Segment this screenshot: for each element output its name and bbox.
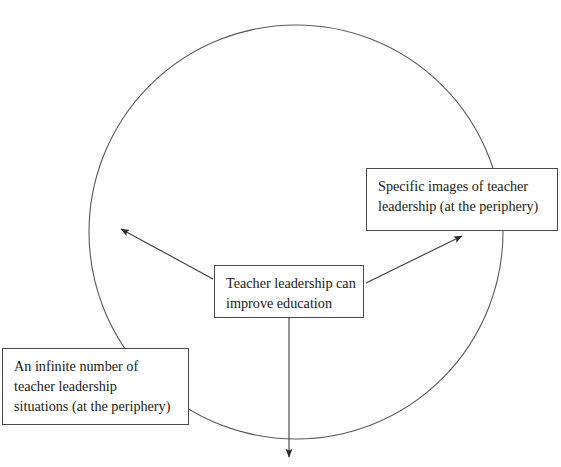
node-text-line: situations (at the periphery) <box>14 396 179 416</box>
node-text-line: An infinite number of <box>14 356 179 376</box>
node-box-teacher-leadership-improves: Teacher leadership can improve education <box>214 265 364 318</box>
node-text-line: improve education <box>226 293 354 313</box>
node-text-line: Specific images of teacher <box>378 176 548 196</box>
arrow-to-upper-left <box>121 229 213 279</box>
arrow-to-specific-images <box>366 236 462 283</box>
diagram-canvas: Specific images of teacher leadership (a… <box>0 0 561 467</box>
node-box-specific-images: Specific images of teacher leadership (a… <box>366 168 558 231</box>
node-text-line: leadership (at the periphery) <box>378 196 548 216</box>
node-text-line: Teacher leadership can <box>226 273 354 293</box>
node-text-line: teacher leadership <box>14 376 179 396</box>
node-box-infinite-situations: An infinite number of teacher leadership… <box>2 348 189 425</box>
